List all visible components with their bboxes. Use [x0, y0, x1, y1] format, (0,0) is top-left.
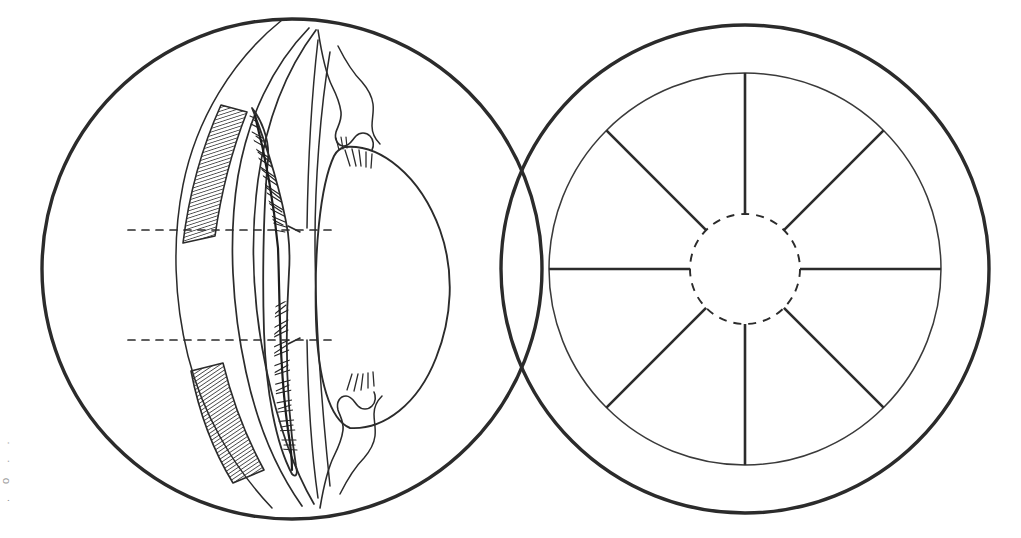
anatomy-figure-svg — [0, 0, 1021, 538]
figure-root: . o . . — [0, 0, 1021, 538]
